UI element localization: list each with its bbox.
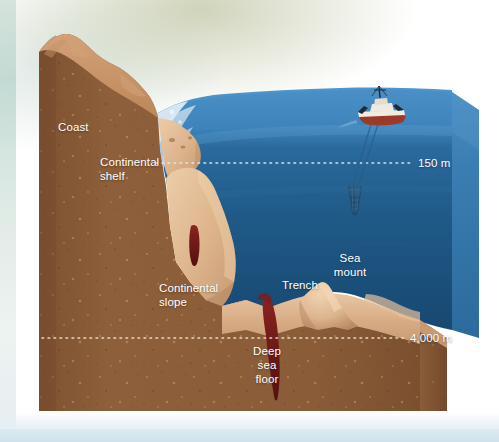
earth-left-edge [39,35,56,411]
ocean-block-illustration [0,0,499,442]
diagram-canvas: Coast Continental shelf Continental slop… [0,0,499,442]
ship-deckhouse [374,98,388,105]
cross-section-svg [0,0,499,442]
